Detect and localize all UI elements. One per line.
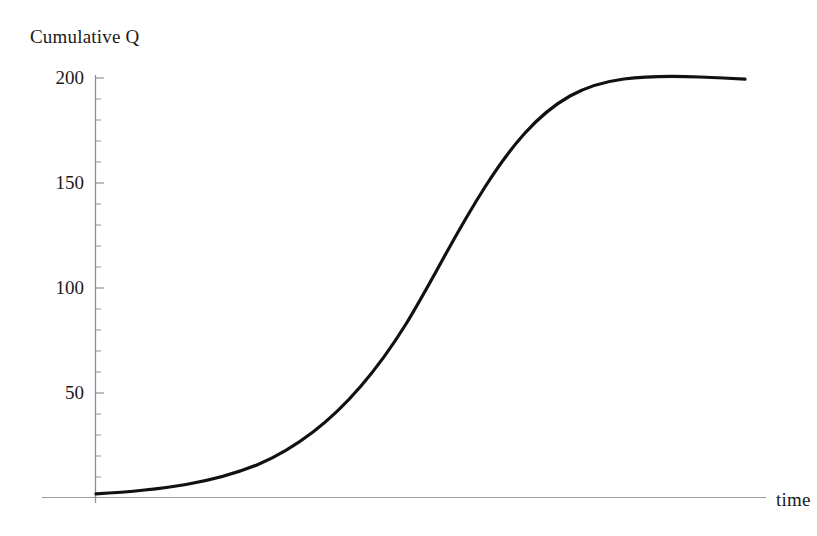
chart-plot-area <box>0 0 817 536</box>
chart-figure: Cumulative Q time 200 150 100 50 <box>0 0 817 536</box>
y-axis-title: Cumulative Q <box>30 26 140 48</box>
y-tick-label-100: 100 <box>12 277 84 299</box>
cumulative-q-curve <box>96 76 745 493</box>
y-tick-label-150: 150 <box>12 172 84 194</box>
x-axis-title: time <box>776 489 811 511</box>
y-tick-label-50: 50 <box>12 382 84 404</box>
y-tick-label-200: 200 <box>12 67 84 89</box>
y-axis-major-ticks <box>96 78 104 393</box>
